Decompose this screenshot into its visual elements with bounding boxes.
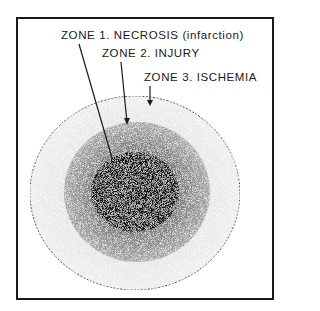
label-zone-2-injury: ZONE 2. INJURY [102,47,200,59]
zone-1-necrosis [91,152,179,232]
label-zone-1-necrosis: ZONE 1. NECROSIS (infarction) [61,29,244,41]
label-zone-3-ischemia: ZONE 3. ISCHEMIA [144,71,257,83]
